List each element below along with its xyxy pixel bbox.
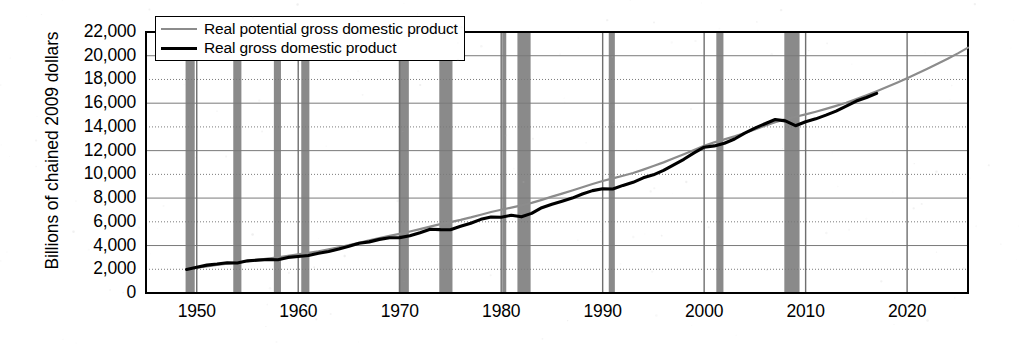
series-line-real-gdp bbox=[187, 93, 877, 269]
recession-bands-group bbox=[186, 32, 800, 293]
recession-band bbox=[233, 32, 241, 293]
legend-entry-real-gdp: Real gross domestic product bbox=[161, 38, 458, 57]
plot-frame bbox=[146, 32, 968, 293]
gridlines-group bbox=[146, 56, 968, 270]
recession-band bbox=[186, 32, 195, 293]
recession-band bbox=[517, 32, 530, 293]
plot-area bbox=[0, 0, 1021, 344]
gdp-chart-figure: Billions of chained 2009 dollars 02,0004… bbox=[0, 0, 1021, 344]
legend-entry-potential-gdp: Real potential gross domestic product bbox=[161, 19, 458, 38]
recession-band bbox=[502, 32, 506, 293]
recession-band bbox=[274, 32, 281, 293]
recession-band bbox=[784, 32, 799, 293]
chart-legend: Real potential gross domestic product Re… bbox=[155, 16, 465, 61]
recession-band bbox=[716, 32, 723, 293]
recession-band bbox=[609, 32, 615, 293]
legend-label-real-gdp: Real gross domestic product bbox=[204, 40, 396, 56]
recession-band bbox=[439, 32, 452, 293]
legend-label-potential-gdp: Real potential gross domestic product bbox=[204, 21, 458, 37]
